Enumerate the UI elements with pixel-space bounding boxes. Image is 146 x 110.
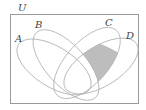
set-d-label: D [125,30,134,41]
universe-label: U [18,2,27,13]
set-c-label: C [105,17,113,28]
set-a-label: A [14,33,22,44]
set-b-label: B [34,19,42,30]
universe-box [11,15,139,104]
venn-diagram: U A B C D [0,0,146,110]
